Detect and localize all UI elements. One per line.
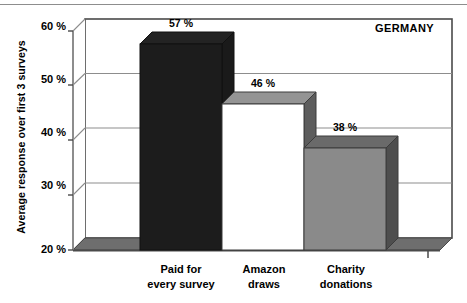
bar-charity-donations[interactable] bbox=[304, 136, 398, 250]
value-label-bar-2: 46 % bbox=[223, 77, 303, 89]
x-axis-category-labels: Paid for every survey Amazon draws Chari… bbox=[0, 262, 467, 303]
category-label-charity-donations: Charity donations bbox=[290, 262, 402, 291]
bar-3-side-face bbox=[386, 136, 398, 250]
left-wall bbox=[73, 19, 85, 250]
bar-2-front-face bbox=[222, 104, 304, 250]
bar-3-top-face bbox=[304, 136, 398, 148]
bar-1-top-face bbox=[140, 32, 234, 44]
annotation-germany: GERMANY bbox=[375, 22, 434, 34]
category-label-line-1: Charity bbox=[290, 262, 402, 277]
plot-area bbox=[0, 0, 467, 303]
bar-2-top-face bbox=[222, 92, 316, 104]
chart-figure: Average response over first 3 surveys 60… bbox=[0, 0, 467, 303]
bar-amazon-draws[interactable] bbox=[222, 92, 316, 250]
category-label-line-2: donations bbox=[290, 277, 402, 292]
bar-paid-for-every-survey[interactable] bbox=[140, 32, 234, 250]
value-label-bar-1: 57 % bbox=[141, 17, 221, 29]
bar-3-front-face bbox=[304, 148, 386, 250]
bar-1-front-face bbox=[140, 44, 222, 250]
value-label-bar-3: 38 % bbox=[305, 121, 385, 133]
